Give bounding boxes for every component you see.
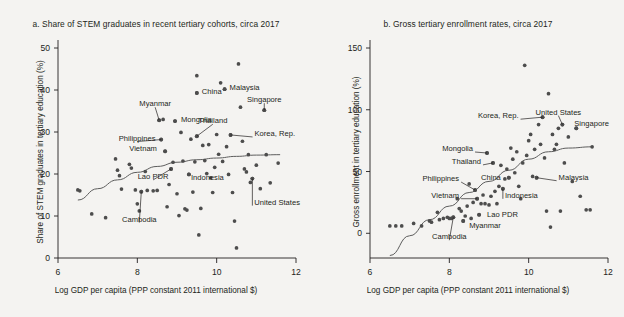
- data-point: [499, 164, 503, 168]
- data-point: [247, 153, 251, 157]
- data-point-labeled: [195, 91, 199, 95]
- data-point: [227, 173, 231, 177]
- data-point-labeled: [461, 219, 465, 223]
- data-point: [191, 190, 195, 194]
- y-tick-label: 0: [357, 228, 362, 238]
- data-point: [155, 189, 159, 193]
- x-tick-label: 6: [56, 267, 61, 277]
- data-point: [264, 153, 268, 157]
- data-point: [116, 168, 120, 172]
- data-point: [479, 202, 483, 206]
- point-annotation-label: Mongolia: [442, 144, 474, 153]
- data-point: [588, 208, 592, 212]
- data-point: [442, 217, 446, 221]
- data-point: [254, 163, 258, 167]
- data-point: [533, 147, 537, 151]
- data-point: [525, 154, 529, 158]
- data-point-labeled: [157, 118, 161, 122]
- data-point: [207, 143, 211, 147]
- point-annotation-label: Thailand: [198, 116, 227, 125]
- data-point: [394, 224, 398, 228]
- panel-b-plot: 050100150681012Korea, Rep.United StatesS…: [312, 0, 624, 317]
- label-leader-line: [521, 117, 543, 119]
- data-point: [189, 137, 193, 141]
- data-point: [231, 191, 235, 195]
- data-point: [537, 123, 541, 127]
- x-tick-label: 8: [135, 267, 140, 277]
- y-tick-label: 0: [45, 253, 50, 263]
- label-leader-line: [155, 107, 159, 120]
- data-point: [487, 203, 491, 207]
- data-point: [563, 161, 567, 165]
- data-point: [179, 131, 183, 135]
- data-point: [539, 143, 543, 147]
- y-tick-label: 50: [352, 167, 362, 177]
- point-annotation-label: Korea, Rep.: [255, 129, 296, 138]
- point-annotation-label: Cambodia: [122, 215, 157, 224]
- x-tick-label: 10: [212, 267, 222, 277]
- data-point: [420, 224, 424, 228]
- data-point: [221, 160, 225, 164]
- data-point: [465, 204, 469, 208]
- y-tick-label: 50: [40, 43, 50, 53]
- data-point: [505, 167, 509, 171]
- data-point: [161, 118, 165, 122]
- data-point: [239, 105, 243, 109]
- data-point: [134, 188, 138, 192]
- data-point: [469, 217, 473, 221]
- data-point: [503, 177, 507, 181]
- point-annotation-label: China: [202, 87, 223, 96]
- data-point: [545, 209, 549, 213]
- data-point: [245, 170, 249, 174]
- point-annotation-label: Singapore: [574, 119, 609, 128]
- data-point: [276, 161, 280, 165]
- point-annotation-label: Malaysia: [230, 83, 261, 92]
- data-point: [120, 187, 124, 191]
- data-point: [467, 182, 471, 186]
- data-point: [215, 133, 219, 137]
- data-point: [566, 135, 570, 139]
- data-point: [175, 192, 179, 196]
- point-annotation-label: Philippines: [119, 134, 156, 143]
- panel-b-enrollment: b. Gross tertiary enrollment rates, circ…: [312, 0, 624, 317]
- data-point: [557, 126, 561, 130]
- data-point: [590, 145, 594, 149]
- data-point: [495, 202, 499, 206]
- point-annotation-label: Lao PDR: [487, 210, 518, 219]
- y-tick-label: 150: [348, 43, 363, 53]
- data-point: [531, 175, 535, 179]
- point-annotation-label: Thailand: [452, 157, 481, 166]
- data-point: [515, 150, 519, 154]
- data-point: [197, 233, 201, 237]
- data-point: [555, 143, 559, 147]
- data-point: [195, 74, 199, 78]
- data-point: [137, 209, 141, 213]
- label-leader-line: [475, 152, 487, 153]
- label-leader-line: [537, 178, 557, 181]
- data-point: [517, 185, 521, 189]
- data-point: [128, 162, 132, 166]
- data-point: [513, 171, 517, 175]
- point-annotation-label: Malaysia: [559, 173, 590, 182]
- point-annotation-label: United States: [536, 108, 582, 117]
- data-point: [527, 139, 531, 143]
- point-annotation-label: Myanmar: [469, 221, 501, 230]
- y-tick-label: 10: [40, 211, 50, 221]
- data-point: [181, 159, 185, 163]
- data-point: [177, 214, 181, 218]
- data-point-labeled: [223, 87, 227, 91]
- data-point: [543, 156, 547, 160]
- data-point: [521, 161, 525, 165]
- data-point: [523, 63, 527, 67]
- data-point: [165, 205, 169, 209]
- data-point: [471, 201, 475, 205]
- point-annotation-label: Myanmar: [139, 99, 171, 108]
- point-annotation-label: Vietnam: [431, 191, 459, 200]
- data-point: [118, 174, 122, 178]
- data-point: [412, 222, 416, 226]
- x-tick-label: 10: [524, 267, 534, 277]
- point-annotation-label: China: [481, 173, 502, 182]
- data-point: [78, 189, 82, 193]
- x-tick-label: 12: [603, 267, 613, 277]
- data-point: [135, 202, 139, 206]
